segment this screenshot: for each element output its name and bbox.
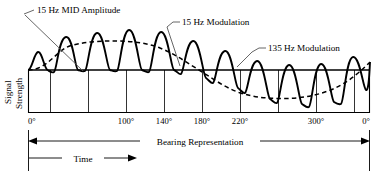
mid-amplitude-label: 15 Hz MID Amplitude [37, 5, 120, 15]
modulation-15-label: 15 Hz Modulation [182, 17, 250, 27]
bearing-signal-chart: 15 Hz MID Amplitude 15 Hz Modulation 135… [0, 0, 380, 171]
modulation-135-label: 135 Hz Modulation [268, 43, 340, 53]
time-label: Time [73, 154, 92, 164]
x-tick-label: 300° [308, 116, 325, 126]
figure-container: 15 Hz MID Amplitude 15 Hz Modulation 135… [0, 0, 380, 171]
x-tick-label: 0° [28, 116, 36, 126]
x-tick-label: 0° [362, 116, 370, 126]
x-tick-label: 100° [118, 116, 135, 126]
x-tick-label: 220° [232, 116, 249, 126]
y-axis-label: Signal Strength [3, 77, 24, 109]
x-tick-label: 140° [156, 116, 173, 126]
y-axis-label-line2: Strength [14, 77, 24, 109]
y-axis-label-line1: Signal [3, 80, 13, 104]
bearing-representation-label: Bearing Representation [157, 137, 244, 147]
x-tick-label: 180° [194, 116, 211, 126]
